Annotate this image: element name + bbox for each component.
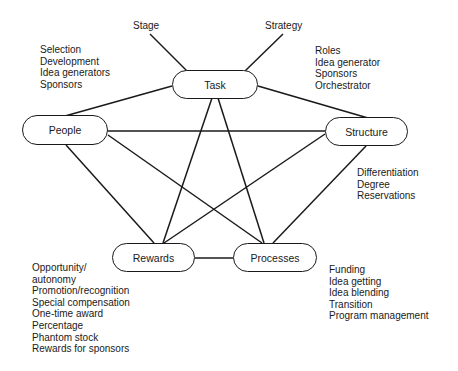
- node-processes-label: Processes: [250, 252, 299, 264]
- list-item: Sponsors: [315, 68, 380, 80]
- stage-label: Stage: [133, 20, 159, 32]
- node-processes: Processes: [233, 243, 317, 272]
- list-item: Degree: [357, 179, 419, 191]
- list-item: Idea getting: [329, 276, 429, 288]
- node-people-label: People: [49, 124, 82, 136]
- rewards-attributes-list: Opportunity/ autonomy Promotion/recognit…: [32, 262, 130, 355]
- processes-attributes-list: Funding Idea getting Idea blending Trans…: [329, 264, 429, 322]
- list-item: Idea generator: [315, 57, 380, 69]
- node-task-label: Task: [204, 79, 226, 91]
- list-item: Sponsors: [40, 79, 110, 91]
- structure-roles-list: Roles Idea generator Sponsors Orchestrat…: [315, 45, 380, 91]
- list-item: Rewards for sponsors: [32, 343, 130, 355]
- list-item: Idea blending: [329, 287, 429, 299]
- list-item: One-time award: [32, 308, 130, 320]
- list-item: Opportunity/: [32, 262, 130, 274]
- list-item: Phantom stock: [32, 332, 130, 344]
- list-item: autonomy: [32, 274, 130, 286]
- list-item: Special compensation: [32, 297, 130, 309]
- node-structure-label: Structure: [345, 126, 388, 138]
- node-people: People: [22, 115, 108, 145]
- list-item: Program management: [329, 310, 429, 322]
- list-item: Roles: [315, 45, 380, 57]
- structure-attributes-list: Differentiation Degree Reservations: [357, 167, 419, 202]
- list-item: Differentiation: [357, 167, 419, 179]
- strategy-label: Strategy: [265, 20, 302, 32]
- people-attributes-list: Selection Development Idea generators Sp…: [40, 44, 110, 90]
- list-item: Selection: [40, 44, 110, 56]
- node-structure: Structure: [325, 117, 408, 146]
- list-item: Percentage: [32, 320, 130, 332]
- node-rewards-label: Rewards: [133, 252, 174, 264]
- list-item: Orchestrator: [315, 80, 380, 92]
- list-item: Development: [40, 56, 110, 68]
- list-item: Promotion/recognition: [32, 285, 130, 297]
- node-task: Task: [172, 70, 258, 99]
- list-item: Transition: [329, 299, 429, 311]
- list-item: Reservations: [357, 190, 419, 202]
- list-item: Funding: [329, 264, 429, 276]
- list-item: Idea generators: [40, 67, 110, 79]
